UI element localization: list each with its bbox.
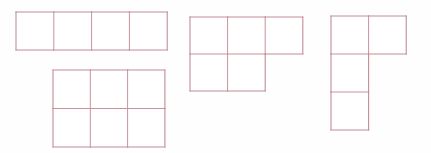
grid-cell <box>228 17 266 54</box>
p-pentomino <box>190 17 303 91</box>
grid-cell <box>128 109 165 148</box>
figures-layer <box>16 12 406 147</box>
grid-cell <box>54 12 92 50</box>
grid-cell <box>265 17 303 54</box>
j-tetromino-vertical <box>331 16 406 130</box>
grid-cell <box>331 16 369 54</box>
grid-cell <box>92 12 130 50</box>
three-by-two-rectangle <box>53 70 165 147</box>
grid-cell <box>228 54 266 91</box>
four-in-a-row-strip <box>16 12 167 50</box>
grid-cell <box>16 12 54 50</box>
grid-cell <box>128 70 165 109</box>
grid-cell <box>53 70 90 109</box>
grid-cell <box>331 92 369 130</box>
grid-cell <box>53 109 90 148</box>
grid-cell <box>129 12 167 50</box>
shapes-canvas <box>0 0 431 153</box>
grid-cell <box>190 54 228 91</box>
grid-cell <box>369 16 407 54</box>
polyomino-figure-group <box>0 0 431 153</box>
grid-cell <box>331 54 369 92</box>
grid-cell <box>90 109 127 148</box>
grid-cell <box>90 70 127 109</box>
grid-cell <box>190 17 228 54</box>
